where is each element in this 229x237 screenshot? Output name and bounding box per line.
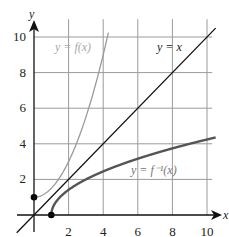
x-tick-label: 4 xyxy=(100,224,107,237)
y-tick-label: 2 xyxy=(20,171,27,186)
x-tick-label: 8 xyxy=(169,224,176,237)
f-curve xyxy=(34,33,108,198)
x-tick-label: 10 xyxy=(201,224,214,237)
y-tick-label: 6 xyxy=(20,100,27,115)
identity-line xyxy=(17,28,216,233)
x-tick-label: 6 xyxy=(135,224,142,237)
x-tick-label: 2 xyxy=(65,224,72,237)
inverse-label: y = f⁻¹(x) xyxy=(130,163,177,177)
curves xyxy=(17,28,216,233)
y-tick-label: 8 xyxy=(20,65,27,80)
y-axis-label: y xyxy=(28,7,35,21)
f-label: y = f(x) xyxy=(54,40,91,54)
axes: x y xyxy=(17,7,229,232)
identity-label: y = x xyxy=(156,40,182,54)
y-tick-label: 10 xyxy=(13,29,26,44)
function-inverse-chart: x y 246810246810 y = f(x) y = x y = f⁻¹(… xyxy=(0,0,229,237)
x-axis-label: x xyxy=(222,208,229,222)
y-tick-label: 4 xyxy=(20,136,27,151)
